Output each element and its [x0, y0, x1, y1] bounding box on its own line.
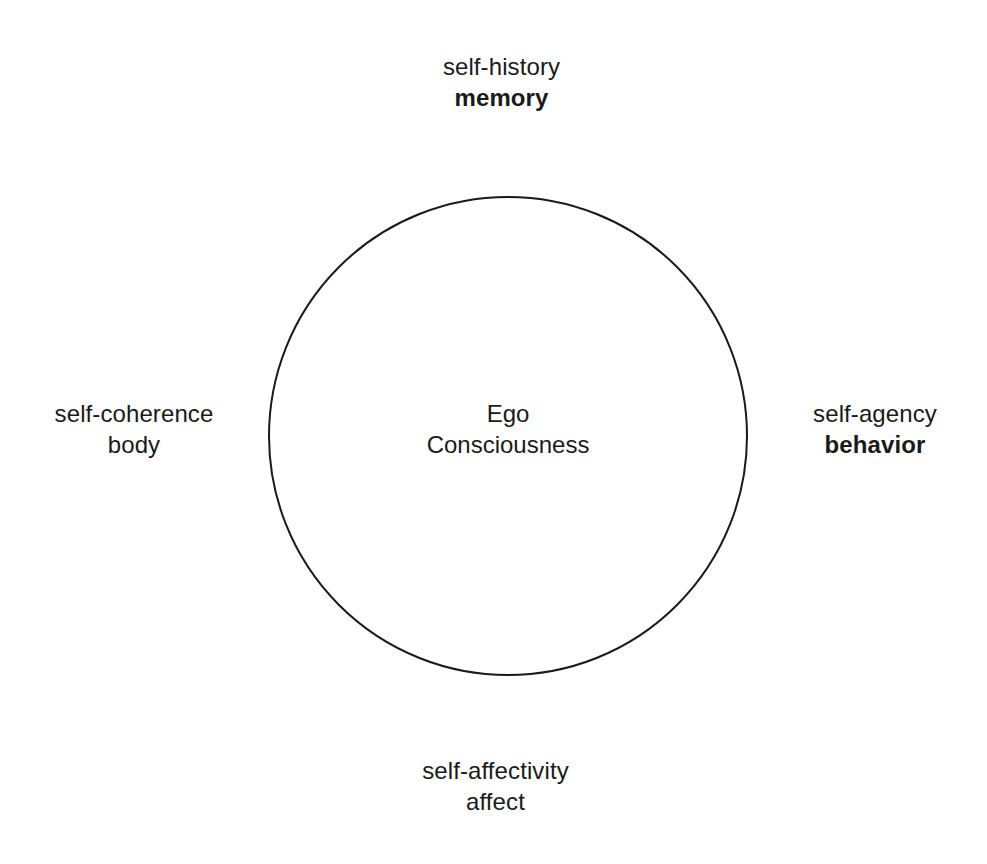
- label-left-self-coherence: self-coherence body: [50, 398, 218, 460]
- label-bottom-self-affectivity: self-affectivity affect: [0, 755, 987, 817]
- label-left-line1: self-coherence: [50, 398, 218, 429]
- center-label-line2: Consciousness: [268, 429, 748, 460]
- label-top-line2-memory: memory: [16, 82, 987, 113]
- label-right-line1: self-agency: [812, 398, 938, 429]
- label-left-line2-body: body: [50, 429, 218, 460]
- label-right-line2-behavior: behavior: [812, 429, 938, 460]
- label-bottom-line1: self-affectivity: [4, 755, 987, 786]
- label-right-self-agency: self-agency behavior: [812, 398, 938, 460]
- center-label-line1: Ego: [268, 398, 748, 429]
- label-bottom-line2-affect: affect: [4, 786, 987, 817]
- center-label: Ego Consciousness: [268, 398, 748, 460]
- label-top-line1: self-history: [16, 51, 987, 82]
- diagram-canvas: Ego Consciousness self-history memory se…: [0, 0, 987, 864]
- label-top-self-history: self-history memory: [0, 51, 987, 113]
